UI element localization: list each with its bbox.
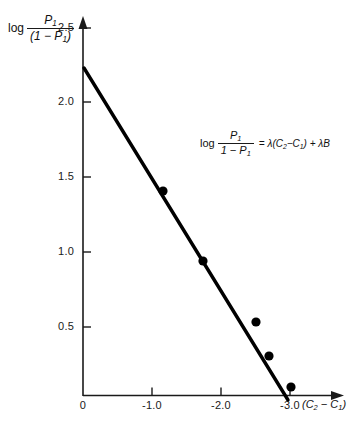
equation-denominator: 1 − P1 (218, 144, 254, 157)
y-tick-label-1.5: 1.5 (38, 170, 74, 182)
equation-right-hand-side: = λ(C2−C1) + λB (259, 138, 330, 149)
y-tick-label-2.5: 2.5 (38, 21, 74, 33)
fit-line (84, 68, 288, 400)
equation-fraction: P11 − P1 (218, 130, 254, 157)
equation-annotation: logP11 − P1= λ(C2−C1) + λB (200, 130, 330, 157)
x-tick-label--3.0: -3.0 (275, 399, 305, 411)
x-axis-ticks (152, 388, 290, 396)
y-tick-label-1.0: 1.0 (38, 245, 74, 257)
x-tick-label--2.0: -2.0 (206, 399, 236, 411)
data-point (251, 317, 260, 326)
equation-lead: log (200, 137, 215, 149)
y-tick-label-0.5: 0.5 (38, 320, 74, 332)
x-tick-label-0: 0 (70, 399, 96, 411)
equation-numerator: P1 (218, 130, 254, 144)
data-point (264, 351, 273, 360)
x-axis-title: (C2 − C1) (302, 398, 346, 410)
y-axis-title-lead: log (8, 21, 24, 35)
data-points (158, 186, 295, 391)
y-tick-label-2.0: 2.0 (38, 95, 74, 107)
x-axis-title-text: (C2 − C1) (302, 398, 346, 410)
data-point (198, 256, 207, 265)
x-tick-label--1.0: -1.0 (137, 399, 167, 411)
chart-canvas (0, 0, 362, 429)
figure-container: logP1(1 − P1) 2.5 2.0 1.5 1.0 0.5 0 -1.0… (0, 0, 362, 429)
y-axis-arrowhead (79, 16, 88, 29)
data-point (158, 186, 167, 195)
data-point (286, 382, 295, 391)
